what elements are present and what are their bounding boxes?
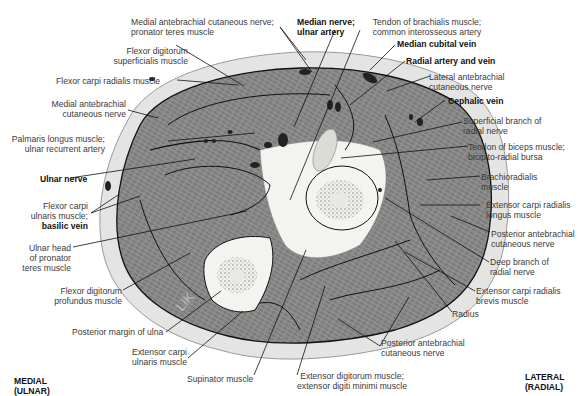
label-fcr: Flexor carpi radialis muscle	[56, 76, 160, 86]
label-palmaris-longus: Palmaris longus muscle; ulnar recurrent …	[5, 134, 105, 154]
label-line: pronator teres muscle	[131, 27, 274, 37]
label-line: cutaneous nerve	[429, 82, 505, 92]
label-line: profundus muscle	[40, 296, 122, 306]
label-line: common interosseous artery	[365, 27, 489, 37]
label-superficial-radial-nerve: Superficial branch of radial nerve	[463, 116, 541, 136]
label-line: radial nerve	[463, 126, 541, 136]
label-line: ulnaris muscle;	[15, 211, 88, 221]
label-medial-antebrachial-pronator: Medial antebrachial cutaneous nerve; pro…	[131, 17, 274, 37]
label-line: Extensor digitorum muscle;	[277, 371, 427, 381]
label-radius: Radius	[452, 309, 479, 319]
orientation-lateral: LATERAL (RADIAL)	[525, 372, 564, 392]
label-line: ulnar recurrent artery	[5, 144, 105, 154]
label-line-basilic-vein: basilic vein	[15, 221, 88, 231]
label-line: Extensor carpi radialis	[486, 200, 571, 210]
label-line: Extensor carpi radialis	[476, 286, 561, 296]
label-line: Tendon of biceps muscle;	[468, 142, 565, 152]
label-line: Median nerve;	[297, 17, 355, 27]
label-ulnar-nerve: Ulnar nerve	[40, 174, 87, 184]
label-line: longus muscle	[486, 210, 571, 220]
label-tendon-brachialis: Tendon of brachialis muscle; common inte…	[365, 17, 489, 37]
label-line: extensor digiti minimi muscle	[277, 381, 427, 391]
label-line: muscle	[481, 182, 537, 192]
label-ecrb: Extensor carpi radialis brevis muscle	[476, 286, 561, 306]
label-medial-antebrachial: Medial antebrachial cutaneous nerve	[30, 99, 126, 119]
label-line: Posterior antebrachial	[381, 338, 465, 348]
label-cephalic-vein: Cephalic vein	[448, 96, 503, 106]
orientation-line: LATERAL	[525, 372, 564, 382]
label-line: Lateral antebrachial	[429, 72, 505, 82]
orientation-medial: MEDIAL (ULNAR)	[14, 376, 50, 396]
label-line: ulnar artery	[297, 27, 355, 37]
orientation-line: (RADIAL)	[525, 382, 564, 392]
label-line: Ulnar head	[20, 243, 71, 253]
label-fcu-basilic: Flexor carpi ulnaris muscle; basilic vei…	[15, 201, 88, 231]
label-line: Posterior antebrachial	[491, 229, 575, 239]
label-line: ulnaris muscle	[110, 357, 187, 367]
label-line: Flexor digitorum	[40, 286, 122, 296]
label-line: teres muscle	[20, 263, 71, 273]
label-line: cutaneous nerve	[491, 239, 575, 249]
label-posterior-margin-ulna: Posterior margin of ulna	[72, 327, 163, 337]
label-line: cutaneous nerve	[381, 348, 465, 358]
label-tendon-biceps: Tendon of biceps muscle; bicipito-radial…	[468, 142, 565, 162]
label-line: superficialis muscle	[110, 56, 188, 66]
label-fds: Flexor digitorum superficialis muscle	[110, 46, 188, 66]
label-line: Tendon of brachialis muscle;	[365, 17, 489, 27]
label-extensor-digitorum: Extensor digitorum muscle; extensor digi…	[277, 371, 427, 391]
label-line: radial nerve	[490, 267, 549, 277]
label-ulnar-head-pronator: Ulnar head of pronator teres muscle	[20, 243, 71, 273]
label-brachioradialis: Brachioradialis muscle	[481, 172, 537, 192]
label-deep-radial-nerve: Deep branch of radial nerve	[490, 257, 549, 277]
label-supinator: Supinator muscle	[187, 374, 253, 384]
label-line: Extensor carpi	[110, 347, 187, 357]
label-radial-artery-vein: Radial artery and vein	[406, 56, 495, 66]
label-line: cutaneous nerve	[30, 109, 126, 119]
orientation-line: (ULNAR)	[14, 386, 50, 396]
label-line: Medial antebrachial cutaneous nerve;	[131, 17, 274, 27]
label-ecrl: Extensor carpi radialis longus muscle	[486, 200, 571, 220]
label-line: Medial antebrachial	[30, 99, 126, 109]
label-line: Superficial branch of	[463, 116, 541, 126]
label-line: Deep branch of	[490, 257, 549, 267]
label-median-cubital-vein: Median cubital vein	[397, 39, 476, 49]
label-line: brevis muscle	[476, 296, 561, 306]
label-line: Brachioradialis	[481, 172, 537, 182]
label-median-nerve-ulnar-artery: Median nerve; ulnar artery	[297, 17, 355, 37]
label-fdp: Flexor digitorum profundus muscle	[40, 286, 122, 306]
label-ecu: Extensor carpi ulnaris muscle	[110, 347, 187, 367]
label-line: of pronator	[20, 253, 71, 263]
label-lateral-antebrachial: Lateral antebrachial cutaneous nerve	[429, 72, 505, 92]
label-line: Palmaris longus muscle;	[5, 134, 105, 144]
label-posterior-antebrachial-bottom: Posterior antebrachial cutaneous nerve	[381, 338, 465, 358]
label-posterior-antebrachial-right: Posterior antebrachial cutaneous nerve	[491, 229, 575, 249]
orientation-line: MEDIAL	[14, 376, 50, 386]
label-line: Flexor digitorum	[110, 46, 188, 56]
label-line: bicipito-radial bursa	[468, 152, 565, 162]
label-line: Flexor carpi	[15, 201, 88, 211]
